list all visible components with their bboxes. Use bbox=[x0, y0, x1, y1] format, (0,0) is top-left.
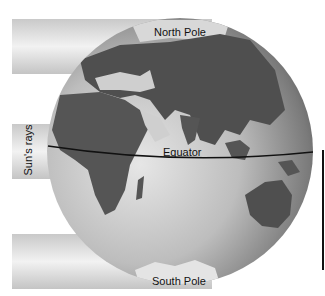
sun-rays-label: Sun's rays bbox=[22, 124, 34, 175]
edge-line bbox=[322, 150, 324, 270]
north-pole-label: North Pole bbox=[154, 26, 206, 38]
earth-diagram: North Pole Equator South Pole Sun's rays bbox=[0, 0, 325, 296]
south-pole-label: South Pole bbox=[152, 275, 206, 287]
equator-label: Equator bbox=[163, 146, 202, 158]
